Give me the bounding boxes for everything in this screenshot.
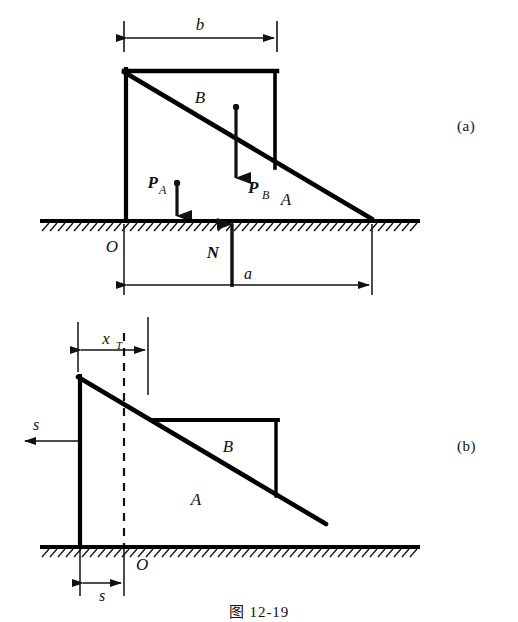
ground-hatching-a [42,223,417,231]
ground-line-panel-a [40,221,420,231]
force-pa-label: P [147,173,159,192]
origin-label-panel-a: O [106,237,118,256]
force-pb-label: P [247,178,259,197]
region-label-b-upper: B [195,88,206,107]
force-pa-subscript: A [158,183,167,197]
dimension-xt-label: x [101,329,110,348]
panel-label-b: (b) [457,438,476,455]
region-label-a-lower: A [280,190,292,209]
figure-caption: 图 12-19 [0,600,518,621]
force-n-label: N [206,243,220,262]
region-label-a-lower-panel-b: A [190,490,202,509]
dimension-s-bottom-group: s [80,549,124,604]
ground-hatching-b [42,549,417,557]
body-panel-b [78,376,326,545]
force-pa-group: P A [147,173,177,216]
dimension-b-label: b [196,15,205,34]
displacement-s-left-group: s [25,416,78,441]
force-n-group: N [206,224,232,287]
region-label-b-upper-panel-b: B [223,437,234,456]
force-pb-subscript: B [262,188,270,202]
dimension-a-group: a [124,224,372,295]
dimension-a-label: a [244,265,252,282]
dimension-b-group: b [124,15,277,52]
displacement-s-label: s [33,416,39,433]
panel-label-a: (a) [457,118,475,135]
incline-hypotenuse-b [78,377,326,524]
dimension-xt-subscript: T [116,339,123,351]
origin-label-panel-b: O [136,555,148,574]
ground-line-panel-b [40,547,420,557]
